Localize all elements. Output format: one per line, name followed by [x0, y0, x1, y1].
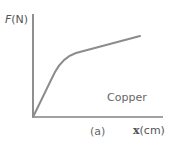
y-axis-unit: (N) [11, 13, 28, 26]
material-annotation: Copper [107, 92, 147, 103]
copper-force-curve [33, 36, 140, 117]
x-axis-unit: (cm) [140, 124, 165, 137]
x-axis-label: x(cm) [133, 125, 165, 136]
y-axis-label: F(N) [5, 14, 28, 25]
panel-label: (a) [90, 126, 105, 137]
